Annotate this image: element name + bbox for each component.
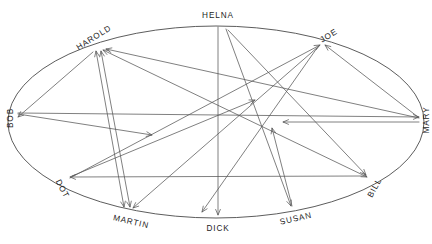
edge-line xyxy=(103,50,367,177)
edge-line xyxy=(106,49,419,118)
edge-bob-to-mary xyxy=(18,113,419,119)
sociogram-page: HELNAJOEMARYBILLSUSANDICKMARTINDOTBOBHAR… xyxy=(0,0,432,244)
edge-harold-to-martin xyxy=(95,51,126,207)
edge-layer xyxy=(18,27,419,215)
node-label-martin: MARTIN xyxy=(112,213,150,230)
edge-line xyxy=(96,51,124,207)
edge-line xyxy=(18,52,93,117)
node-label-bob: BOB xyxy=(6,108,15,128)
edge-dot-to-joe xyxy=(70,45,320,178)
edge-line xyxy=(18,114,152,135)
node-label-harold: HAROLD xyxy=(75,23,113,52)
sociogram-canvas: HELNAJOEMARYBILLSUSANDICKMARTINDOTBOBHAR… xyxy=(0,0,432,244)
edge-harold-to-bill xyxy=(103,50,367,177)
edge-line xyxy=(72,100,255,176)
edge-dot-to-center xyxy=(72,100,255,176)
node-label-helna: HELNA xyxy=(202,11,234,20)
node-label-dot: DOT xyxy=(54,178,71,200)
edge-line xyxy=(202,48,317,212)
edge-line xyxy=(133,46,319,208)
edge-line xyxy=(70,45,320,178)
arrowhead-icon xyxy=(202,206,207,212)
edge-helna-to-susan xyxy=(226,29,291,206)
edge-harold-to-bob xyxy=(18,52,93,117)
node-label-mary: MARY xyxy=(422,106,431,133)
edge-line xyxy=(70,176,366,177)
edge-mary-to-center xyxy=(283,120,419,125)
edge-joe-to-dick xyxy=(202,48,317,212)
node-label-bill: BILL xyxy=(366,177,384,199)
edge-line xyxy=(226,29,291,206)
edge-joe-to-martin xyxy=(133,46,319,208)
node-label-dick: DICK xyxy=(206,224,229,233)
node-label-joe: JOE xyxy=(319,27,340,45)
edge-bob-to-center xyxy=(18,114,152,136)
